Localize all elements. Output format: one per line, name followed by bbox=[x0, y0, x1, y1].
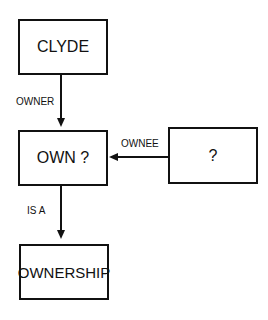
node-clyde: CLYDE bbox=[18, 19, 108, 75]
arrowhead-icon bbox=[109, 153, 118, 161]
node-label: OWN ? bbox=[37, 149, 89, 167]
edge-label-owner: OWNER bbox=[16, 96, 54, 107]
node-unknown: ? bbox=[168, 127, 258, 184]
edge-label-is-a: IS A bbox=[27, 205, 45, 216]
edge-label-ownee: OWNEE bbox=[121, 138, 159, 149]
node-label: CLYDE bbox=[37, 38, 89, 56]
arrowhead-icon bbox=[57, 118, 65, 127]
node-ownership: OWNERSHIP bbox=[19, 244, 109, 300]
node-own: OWN ? bbox=[18, 130, 108, 186]
arrowhead-icon bbox=[57, 230, 65, 239]
node-label: ? bbox=[209, 147, 218, 165]
node-label: OWNERSHIP bbox=[18, 264, 111, 281]
